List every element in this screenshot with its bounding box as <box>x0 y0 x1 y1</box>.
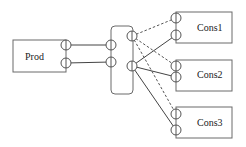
port-cons1-p1-icon <box>171 13 181 23</box>
port-cons1-p2-icon <box>171 30 181 40</box>
edge-prod-p2-to-broker-in2 <box>66 62 111 63</box>
cons1-label: Cons1 <box>197 22 223 33</box>
port-cons3-p2-icon <box>171 125 181 135</box>
port-prod-p1-icon <box>61 40 71 50</box>
node-prod: Prod <box>13 40 66 72</box>
node-cons2: Cons2 <box>176 60 232 91</box>
port-broker-out1-icon <box>127 31 137 41</box>
port-cons2-p1-icon <box>171 61 181 71</box>
port-broker-in1-icon <box>106 40 116 50</box>
port-broker-out2-icon <box>127 61 137 71</box>
node-cons3: Cons3 <box>176 107 232 138</box>
prod-label: Prod <box>25 51 44 62</box>
edge-broker-out1-to-cons1-p1 <box>132 18 176 36</box>
port-prod-p2-icon <box>61 58 71 68</box>
cons3-label: Cons3 <box>197 117 223 128</box>
nodes-layer: ProdCons1Cons2Cons3 <box>13 12 232 138</box>
diagram-canvas: ProdCons1Cons2Cons3 <box>0 0 246 147</box>
node-cons1: Cons1 <box>176 12 232 43</box>
cons2-label: Cons2 <box>197 69 223 80</box>
port-broker-in2-icon <box>106 57 116 67</box>
port-cons3-p1-icon <box>171 109 181 119</box>
port-cons2-p2-icon <box>171 72 181 82</box>
